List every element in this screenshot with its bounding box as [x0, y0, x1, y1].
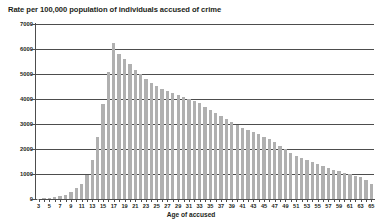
x-axis-tick-label: 61	[347, 203, 353, 210]
x-axis-tick-label: 23	[143, 203, 149, 210]
x-axis-tick-label: 59	[336, 203, 342, 210]
bar	[311, 162, 314, 200]
x-axis-tick-mark	[371, 199, 372, 202]
x-axis-tick-mark	[307, 199, 308, 202]
x-axis-tick-label: 55	[315, 203, 321, 210]
x-axis-tick-label: 35	[207, 203, 213, 210]
x-axis-tick-mark	[130, 199, 131, 202]
x-axis-tick-label: 57	[325, 203, 331, 210]
bar	[316, 164, 319, 200]
bar	[75, 188, 78, 199]
x-axis-tick-mark	[344, 199, 345, 202]
x-axis-tick-mark	[184, 199, 185, 202]
bar	[359, 177, 362, 199]
x-axis-tick-mark	[194, 199, 195, 202]
bar	[332, 170, 335, 200]
x-axis-tick-mark	[146, 199, 147, 202]
x-axis-tick-mark	[76, 199, 77, 202]
x-axis-tick-label: 3	[37, 203, 40, 210]
x-axis-tick-label: 45	[261, 203, 267, 210]
bar	[284, 149, 287, 199]
bar	[348, 174, 351, 199]
x-axis-tick-mark	[200, 199, 201, 202]
bar	[112, 43, 115, 199]
x-axis-tick-label: 21	[132, 203, 138, 210]
x-axis-tick-mark	[285, 199, 286, 202]
x-axis-tick-mark	[125, 199, 126, 202]
bar	[187, 99, 190, 199]
bar	[139, 74, 142, 199]
x-axis-tick-mark	[205, 199, 206, 202]
x-axis-tick-mark	[108, 199, 109, 202]
x-axis-tick-mark	[49, 199, 50, 202]
bar	[117, 54, 120, 199]
bar-series	[36, 24, 374, 199]
x-axis-tick-label: 63	[357, 203, 363, 210]
x-axis-tick-label: 25	[154, 203, 160, 210]
bar	[123, 59, 126, 200]
bar	[219, 116, 222, 199]
x-axis-tick-mark	[264, 199, 265, 202]
x-axis-tick-label: 65	[368, 203, 374, 210]
x-axis-tick-label: 41	[239, 203, 245, 210]
bar	[257, 134, 260, 199]
bar	[241, 128, 244, 199]
y-axis-tick-label: 4000	[3, 96, 33, 102]
x-axis-tick-mark	[167, 199, 168, 202]
bar	[337, 171, 340, 199]
x-axis-tick-label: 47	[272, 203, 278, 210]
x-axis-tick-mark	[318, 199, 319, 202]
bar	[85, 175, 88, 200]
chart-title: Rate per 100,000 population of individua…	[8, 5, 221, 14]
plot-area	[36, 24, 374, 199]
bar	[69, 192, 72, 200]
x-axis-tick-label: 19	[121, 203, 127, 210]
bar	[160, 89, 163, 199]
bar	[289, 153, 292, 200]
y-axis-tick-label: 2000	[3, 146, 33, 152]
x-axis-tick-label: 51	[293, 203, 299, 210]
x-axis-tick-mark	[98, 199, 99, 202]
x-axis-tick-mark	[221, 199, 222, 202]
bar	[230, 122, 233, 199]
x-axis-tick-mark	[302, 199, 303, 202]
x-axis-tick-mark	[92, 199, 93, 202]
bar	[91, 160, 94, 199]
bar	[150, 83, 153, 199]
x-axis-tick-mark	[162, 199, 163, 202]
x-axis-tick-mark	[66, 199, 67, 202]
bar	[107, 72, 110, 199]
bar	[209, 110, 212, 199]
bar	[246, 130, 249, 199]
x-axis-tick-mark	[87, 199, 88, 202]
x-axis-tick-mark	[119, 199, 120, 202]
bar	[321, 166, 324, 200]
x-axis-tick-mark	[232, 199, 233, 202]
x-axis-tick-mark	[248, 199, 249, 202]
bar	[262, 137, 265, 200]
x-axis-tick-mark	[275, 199, 276, 202]
y-axis-tick-label: 6000	[3, 46, 33, 52]
x-axis-tick-mark	[350, 199, 351, 202]
x-axis-tick-mark	[55, 199, 56, 202]
x-axis-tick-mark	[157, 199, 158, 202]
x-axis-tick-mark	[334, 199, 335, 202]
x-axis-tick-label: 39	[229, 203, 235, 210]
x-axis-tick-label: 13	[89, 203, 95, 210]
x-axis-tick-mark	[82, 199, 83, 202]
x-axis-tick-mark	[328, 199, 329, 202]
bar	[225, 119, 228, 199]
y-axis-tick-label: 0	[3, 196, 33, 202]
x-axis-tick-mark	[296, 199, 297, 202]
x-axis-title: Age of accused	[0, 211, 382, 218]
bar	[300, 158, 303, 200]
bar	[166, 91, 169, 199]
bar	[354, 176, 357, 200]
x-axis-tick-mark	[366, 199, 367, 202]
bar	[268, 139, 271, 199]
bar	[343, 173, 346, 200]
y-axis-tick-label: 1000	[3, 171, 33, 177]
x-axis-tick-mark	[39, 199, 40, 202]
bar	[370, 184, 373, 200]
x-axis-tick-label: 27	[164, 203, 170, 210]
